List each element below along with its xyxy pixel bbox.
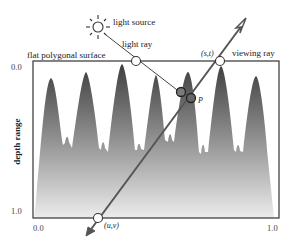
arrow-head-bottom-icon	[86, 227, 95, 236]
relief-mapping-diagram	[0, 0, 294, 243]
light-ray-entry-marker	[132, 57, 141, 66]
light-source-label: light source	[113, 18, 155, 27]
y-axis-label: depth range	[13, 118, 22, 164]
p-label: P	[198, 97, 203, 105]
x-tick-left: 0.0	[33, 224, 44, 233]
p-point-marker	[187, 94, 196, 103]
viewing-ray-label: viewing ray	[232, 49, 275, 58]
uv-label: (u,v)	[104, 222, 119, 230]
y-tick-top: 0.0	[11, 63, 22, 72]
x-tick-right: 1.0	[267, 224, 278, 233]
st-marker	[216, 57, 225, 66]
depth-profile	[34, 64, 274, 218]
light-ray-label: light ray	[122, 40, 152, 49]
flat-surface-label: flat polygonal surface	[27, 51, 105, 60]
uv-marker	[94, 214, 103, 223]
st-label: (s,t)	[201, 50, 214, 58]
y-tick-bottom: 1.0	[11, 207, 22, 216]
shadow-point-marker	[177, 88, 186, 97]
